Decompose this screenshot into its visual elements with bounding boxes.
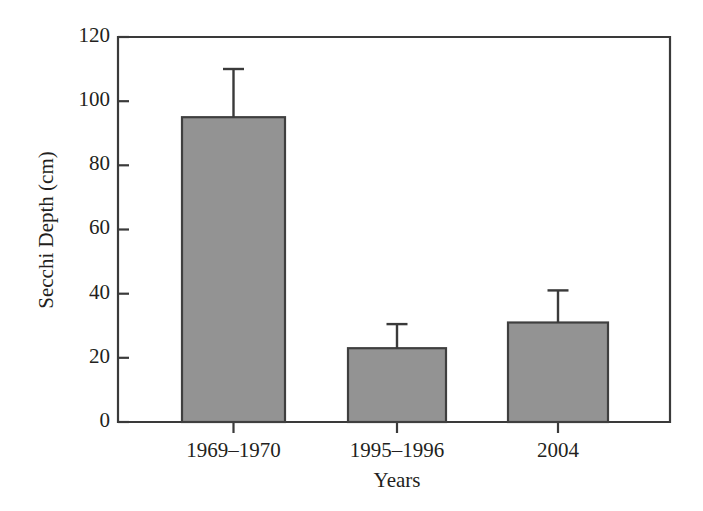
y-tick-label: 0 [100, 408, 111, 432]
chart-figure: 0 20 40 60 80 100 120 [0, 0, 703, 511]
bar-chart-svg: 0 20 40 60 80 100 120 [0, 0, 703, 511]
y-tick-label: 20 [89, 344, 110, 368]
chart-background [0, 0, 703, 511]
y-tick-label: 60 [89, 215, 110, 239]
y-tick-label: 120 [79, 23, 111, 47]
y-axis-title: Secchi Depth (cm) [34, 151, 58, 308]
bar-1995-1996 [348, 348, 446, 422]
x-axis-title: Years [374, 468, 421, 492]
x-tick-label: 2004 [537, 438, 580, 462]
bar-2004 [508, 323, 608, 423]
x-tick-label: 1995–1996 [350, 438, 445, 462]
bar-1969-1970 [182, 117, 285, 422]
y-tick-label: 80 [89, 151, 110, 175]
y-tick-label: 40 [89, 280, 110, 304]
x-tick-label: 1969–1970 [186, 438, 281, 462]
y-tick-label: 100 [79, 87, 111, 111]
